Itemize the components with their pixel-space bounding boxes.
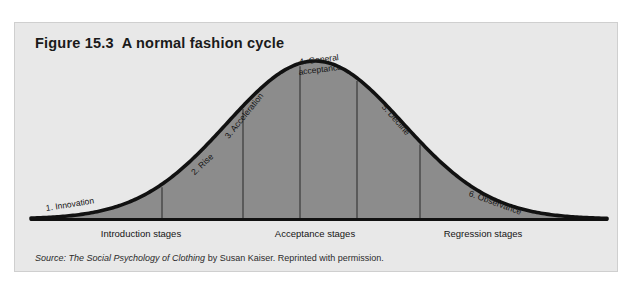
figure-screenshot: Figure 15.3 A normal fashion cycle 1. In…	[0, 0, 634, 286]
curve-fill-area	[31, 61, 607, 219]
source-prefix: Source:	[35, 253, 66, 263]
source-rest: by Susan Kaiser. Reprinted with permissi…	[208, 253, 384, 263]
group-label-introduction-stages: Introduction stages	[71, 228, 211, 239]
group-label-acceptance-stages: Acceptance stages	[245, 228, 385, 239]
source-title: The Social Psychology of Clothing	[69, 253, 206, 263]
figure-panel: Figure 15.3 A normal fashion cycle 1. In…	[14, 22, 618, 272]
chart-area: 1. Innovation 2. Rise 3. Acceleration 4.…	[15, 23, 618, 272]
source-note: Source: The Social Psychology of Clothin…	[35, 253, 384, 263]
group-label-regression-stages: Regression stages	[413, 228, 553, 239]
